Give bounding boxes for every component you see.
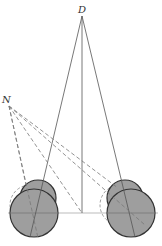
- label-D: D: [77, 4, 86, 15]
- dashed-N-4: [9, 106, 118, 188]
- diagram-canvas: D N: [0, 0, 162, 246]
- label-N: N: [1, 94, 12, 105]
